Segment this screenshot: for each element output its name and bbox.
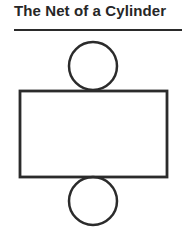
top-circle-base: [69, 42, 117, 90]
bottom-circle-base: [69, 177, 117, 225]
cylinder-net-diagram: [0, 0, 188, 236]
lateral-surface-rectangle: [20, 91, 167, 177]
